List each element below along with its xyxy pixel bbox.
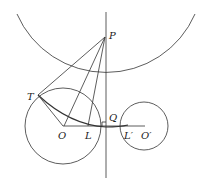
right-angle-marker — [102, 122, 106, 126]
label-o-prime: O′ — [141, 131, 151, 141]
label-l: L — [85, 131, 92, 141]
label-o: O — [58, 131, 66, 141]
label-t: T — [27, 92, 34, 102]
label-l-prime: L′ — [124, 131, 133, 141]
segment-pt — [38, 37, 105, 95]
label-q: Q — [109, 113, 117, 123]
segment-to — [38, 95, 63, 126]
segment-pl — [88, 37, 105, 126]
label-p: P — [109, 31, 116, 41]
